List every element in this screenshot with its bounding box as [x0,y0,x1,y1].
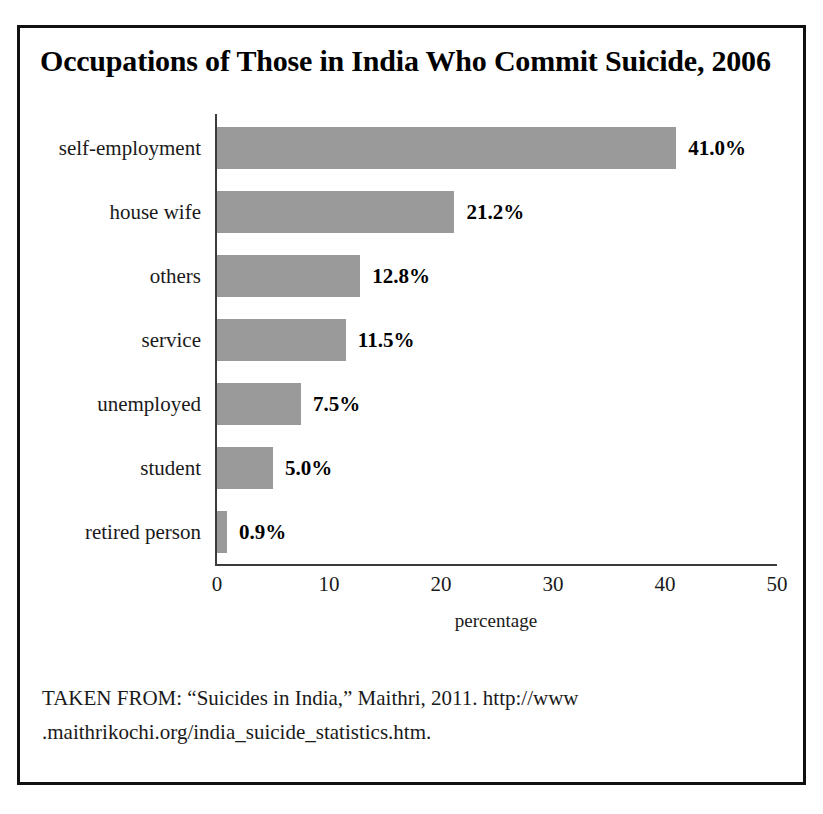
category-label: others [20,264,201,289]
x-tick-label: 30 [523,572,583,597]
bar-value-label: 7.5% [313,392,360,417]
bar [217,383,301,425]
bar-value-label: 21.2% [466,200,524,225]
figure-frame: Occupations of Those in India Who Commit… [17,25,806,785]
x-tick-label: 40 [635,572,695,597]
bar-row: others12.8% [20,244,803,308]
bar-row: retired person0.9% [20,500,803,564]
bar-row: house wife21.2% [20,180,803,244]
chart-title: Occupations of Those in India Who Commit… [40,44,790,78]
bar-row: self-employment41.0% [20,116,803,180]
x-tick-label: 0 [187,572,247,597]
source-line-1: TAKEN FROM: “Suicides in India,” Maithri… [42,681,782,715]
x-tick-label: 50 [747,572,807,597]
x-axis-title: percentage [215,610,777,632]
source-line-2: .maithrikochi.org/india_suicide_statisti… [42,715,782,749]
bar [217,127,676,169]
bar-value-label: 41.0% [688,136,746,161]
bar-row: student5.0% [20,436,803,500]
category-label: service [20,328,201,353]
x-axis-line [215,564,777,566]
bar [217,511,227,553]
bar-value-label: 5.0% [285,456,332,481]
category-label: retired person [20,520,201,545]
bar-value-label: 12.8% [372,264,430,289]
bar-value-label: 11.5% [358,328,415,353]
plot-area: self-employment41.0%house wife21.2%other… [20,114,803,584]
bar-row: unemployed7.5% [20,372,803,436]
category-label: self-employment [20,136,201,161]
bar [217,191,454,233]
source-note: TAKEN FROM: “Suicides in India,” Maithri… [42,681,782,749]
category-label: house wife [20,200,201,225]
bar [217,447,273,489]
bar [217,319,346,361]
x-tick-label: 20 [411,572,471,597]
category-label: student [20,456,201,481]
category-label: unemployed [20,392,201,417]
bar-value-label: 0.9% [239,520,286,545]
bar-row: service11.5% [20,308,803,372]
x-tick-label: 10 [299,572,359,597]
bar [217,255,360,297]
